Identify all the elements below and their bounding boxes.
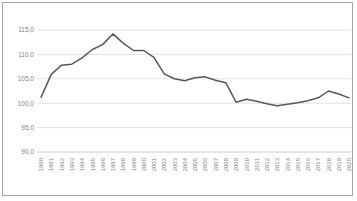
x-axis-tick-label: 2012 — [264, 157, 270, 171]
x-axis-tick-label: 2011 — [254, 157, 260, 171]
x-axis-tick-label: 2009 — [233, 157, 239, 171]
x-axis-tick-label: 2002 — [161, 157, 167, 171]
y-axis-tick-label: 110,0 — [18, 51, 34, 58]
x-axis-tick-label: 1999 — [131, 157, 137, 171]
x-axis-tick-label: 2010 — [244, 157, 250, 171]
x-axis-tick-label: 2020 — [346, 157, 352, 171]
x-axis-tick-label: 1994 — [79, 157, 85, 171]
x-axis-tick-label: 2015 — [295, 157, 301, 171]
y-axis-tick-label: 115,0 — [18, 26, 34, 33]
chart-plot-area: 90,095,0100,0105,0110,0115,0 19901991199… — [3, 3, 354, 197]
x-axis-tick-label: 1998 — [120, 157, 126, 171]
x-axis-tick-label: 2006 — [202, 157, 208, 171]
x-axis-tick-label: 1996 — [100, 157, 106, 171]
x-axis-tick-label: 1997 — [110, 157, 116, 171]
x-axis-tick-label: 2001 — [151, 157, 157, 171]
x-axis-tick-label: 2005 — [192, 157, 198, 171]
data-series-group — [41, 34, 349, 106]
x-axis-tick-label: 2004 — [182, 157, 188, 171]
x-axis-tick-label: 1992 — [59, 157, 65, 171]
x-axis-tick-label: 2008 — [223, 157, 229, 171]
y-axis-tick-label: 95,0 — [21, 124, 34, 131]
x-axis-tick-label: 1991 — [48, 157, 54, 171]
x-axis-tick-label: 2018 — [326, 157, 332, 171]
x-axis-tick-label: 2000 — [141, 157, 147, 171]
x-axis-tick-label: 2019 — [336, 157, 342, 171]
x-axis-tick-label: 2016 — [305, 157, 311, 171]
x-axis-tick-label: 2013 — [274, 157, 280, 171]
x-axis-tick-label: 1990 — [38, 157, 44, 171]
x-axis-tick-label: 2017 — [315, 157, 321, 171]
x-axis-labels: 1990199119921993199419951996199719981999… — [38, 157, 352, 171]
x-axis-tick-label: 1993 — [69, 157, 75, 171]
gridlines — [37, 30, 351, 152]
x-axis-tick-label: 2014 — [285, 157, 291, 171]
x-axis-tick-label: 2003 — [172, 157, 178, 171]
y-axis-labels: 90,095,0100,0105,0110,0115,0 — [18, 26, 35, 155]
chart-frame: 90,095,0100,0105,0110,0115,0 19901991199… — [2, 2, 353, 196]
x-axis-tick-label: 1995 — [90, 157, 96, 171]
line-chart: 90,095,0100,0105,0110,0115,0 19901991199… — [3, 3, 354, 197]
y-axis-tick-label: 100,0 — [18, 100, 35, 107]
x-axis-tick-label: 2007 — [213, 157, 219, 171]
data-line-index — [41, 34, 349, 106]
y-axis-tick-label: 90,0 — [21, 148, 34, 155]
y-axis-tick-label: 105,0 — [18, 75, 35, 82]
